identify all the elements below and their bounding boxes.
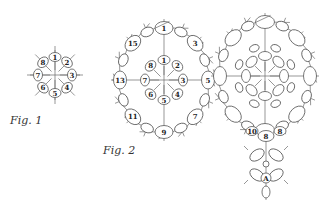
fig3-petal-picot	[284, 180, 288, 184]
fig3-outer-oval	[286, 103, 309, 126]
fig3-inner-oval	[259, 52, 272, 61]
fig3-outer-oval	[214, 67, 227, 86]
fig3-pendant-label: 8	[278, 127, 283, 136]
fig3-outer-oval	[256, 16, 275, 29]
fig3-pendant-label: 10	[247, 127, 257, 136]
fig1-label: 7	[36, 71, 41, 80]
fig2-inner-label: 7	[143, 76, 148, 85]
diagram-svg: 1234567813579111315123456781088A	[0, 0, 323, 204]
fig3-outer-oval	[300, 48, 313, 63]
fig3-inner-oval	[244, 82, 260, 98]
fig2-outer-oval	[198, 52, 211, 67]
fig2-outer-oval	[173, 25, 188, 38]
fig3-middle-oval	[248, 43, 260, 53]
fig2-outer-label: 11	[128, 112, 138, 121]
fig2-outer-oval	[139, 121, 154, 134]
fig2-inner-label: 5	[162, 96, 167, 105]
fig1-label: 1	[53, 53, 58, 62]
fig3-petal-center	[263, 161, 269, 167]
fig2-outer-label: 3	[193, 39, 198, 48]
fig3-outer-oval	[240, 19, 255, 32]
fig3-outer-oval	[217, 48, 230, 63]
fig3-inner-oval	[271, 54, 287, 70]
fig2-outer-oval	[173, 121, 188, 134]
fig2-center-spoke	[154, 83, 160, 89]
fig3-outer-oval	[300, 89, 313, 104]
fig3-center-spoke	[255, 66, 261, 72]
fig2-inner-label: 2	[175, 61, 180, 70]
fig3-petal-picot	[244, 180, 248, 184]
fig1-label: 6	[41, 83, 46, 92]
fig1-label: 3	[70, 71, 75, 80]
fig2-inner-label: 6	[148, 90, 153, 99]
fig3-petal-picot	[284, 146, 288, 150]
fig3-outer-oval	[304, 67, 317, 86]
fig3-outer-oval	[217, 89, 230, 104]
fig3-inner-oval	[280, 70, 289, 83]
fig2-outer-label: 5	[206, 76, 211, 85]
fig3-outer-oval	[222, 103, 245, 126]
fig3-middle-oval	[234, 59, 244, 71]
fig3-inner-oval	[242, 70, 251, 83]
fig2-outer-oval	[117, 92, 130, 107]
fig1-caption: Fig. 1	[10, 114, 42, 127]
fig2-inner-label: 4	[175, 90, 180, 99]
fig2-inner-label: 1	[162, 56, 167, 65]
fig2-center-spoke	[167, 83, 173, 89]
fig3-petal-oval	[267, 146, 286, 163]
fig1-label: 4	[65, 83, 70, 92]
tatting-diagram-canvas: 1234567813579111315123456781088A Fig. 1 …	[0, 0, 323, 204]
fig1-label: 2	[65, 58, 70, 67]
fig1-label: 5	[53, 89, 58, 98]
fig3-inner-oval	[271, 82, 287, 98]
fig3-inner-oval	[259, 92, 272, 101]
fig3-center-spoke	[268, 66, 274, 72]
fig2-outer-label: 13	[115, 76, 125, 85]
fig3-petal-oval	[248, 146, 267, 163]
fig2-center-spoke	[154, 70, 160, 76]
fig2-caption: Fig. 2	[103, 144, 135, 157]
fig3-middle-oval	[286, 82, 296, 94]
fig2-outer-oval	[117, 52, 130, 67]
fig3-outer-oval	[222, 27, 245, 50]
fig2-outer-label: 15	[128, 39, 138, 48]
fig2-outer-label: 7	[193, 112, 198, 121]
fig3-pendant-label: 8	[264, 132, 269, 141]
fig1-label: 8	[41, 58, 46, 67]
fig3-petal-picot	[244, 146, 248, 150]
fig3-outer-oval	[274, 19, 289, 32]
fig3-middle-oval	[234, 82, 244, 94]
fig2-inner-label: 3	[181, 76, 186, 85]
fig2-outer-label: 9	[162, 128, 167, 137]
fig3-middle-oval	[270, 43, 282, 53]
fig2-outer-oval	[139, 25, 154, 38]
fig3-middle-oval	[270, 99, 282, 109]
fig3-middle-oval	[286, 59, 296, 71]
fig3-outer-oval	[286, 27, 309, 50]
fig3-center-spoke	[268, 79, 274, 85]
fig2-inner-label: 8	[148, 61, 153, 70]
fig3-inner-oval	[244, 54, 260, 70]
fig3-center-spoke	[255, 79, 261, 85]
fig2-center-spoke	[167, 70, 173, 76]
fig3-pendant-label: A	[262, 174, 269, 183]
fig3-pendant-tip-oval	[262, 186, 270, 198]
fig3-middle-oval	[248, 99, 260, 109]
fig2-outer-oval	[198, 92, 211, 107]
